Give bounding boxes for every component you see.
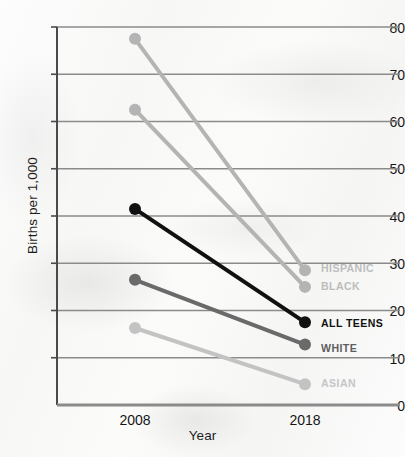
series-white [129, 274, 311, 351]
data-point-hispanic-2008 [129, 33, 141, 45]
gridlines [51, 27, 400, 358]
plot-area [0, 0, 405, 457]
series-line-all-teens [135, 209, 305, 322]
series-line-hispanic [135, 39, 305, 271]
data-point-asian-2008 [129, 322, 141, 334]
data-point-hispanic-2018 [299, 264, 311, 276]
data-point-white-2018 [299, 339, 311, 351]
data-point-black-2018 [299, 281, 311, 293]
series-line-black [135, 110, 305, 287]
series-lines [129, 33, 311, 390]
series-asian [129, 322, 311, 390]
teen-birth-rate-line-chart: 80 70 60 50 40 30 20 10 0 2008 2018 Birt… [0, 0, 405, 457]
data-point-black-2008 [129, 104, 141, 116]
data-point-all-teens-2008 [129, 203, 141, 215]
series-hispanic [129, 33, 311, 277]
data-point-all-teens-2018 [299, 316, 311, 328]
data-point-white-2008 [129, 274, 141, 286]
data-point-asian-2018 [299, 378, 311, 390]
